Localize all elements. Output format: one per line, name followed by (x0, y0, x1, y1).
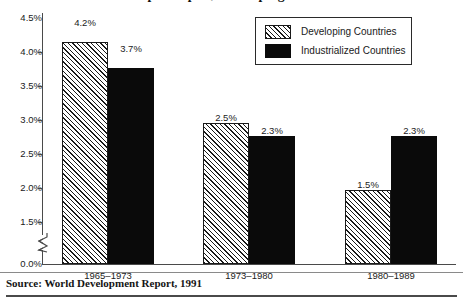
figure-title-clipped: Growth Rates of GDP per Capita, Developi… (14, 0, 454, 3)
hatched-swatch-icon (265, 25, 291, 39)
bar-industrialized-1980-1989[interactable] (391, 136, 437, 264)
source-note: Source: World Development Report, 1991 (6, 277, 202, 290)
legend-box: Developing Countries Industrialized Coun… (255, 17, 412, 65)
bar-developing-1965-1973[interactable] (62, 42, 108, 264)
source-divider-top (0, 272, 463, 273)
bar-value-industrialized-1980-1989: 2.3% (390, 125, 438, 136)
legend-label-developing: Developing Countries (301, 26, 397, 38)
solid-black-swatch-icon (265, 44, 291, 58)
bar-developing-1980-1989[interactable] (345, 190, 391, 264)
plot-area: 4.5% 4.0% 3.5% 3.0% 2.5% 2.0% 1.5% 0.0% (0, 5, 463, 267)
source-divider-bottom (6, 295, 457, 297)
figure-container: Growth Rates of GDP per Capita, Developi… (0, 0, 463, 302)
bar-value-developing-1965-1973: 4.2% (61, 17, 109, 28)
bar-industrialized-1965-1973[interactable] (108, 68, 154, 264)
bar-developing-1973-1980[interactable] (203, 123, 249, 264)
bar-value-industrialized-1973-1980: 2.3% (248, 125, 296, 136)
bar-industrialized-1973-1980[interactable] (249, 136, 295, 264)
bar-value-developing-1980-1989: 1.5% (344, 179, 392, 190)
bar-value-industrialized-1965-1973: 3.7% (107, 43, 155, 54)
legend-label-industrialized: Industrialized Countries (301, 45, 406, 57)
x-axis-baseline (42, 264, 456, 265)
bar-value-developing-1973-1980: 2.5% (202, 112, 250, 123)
